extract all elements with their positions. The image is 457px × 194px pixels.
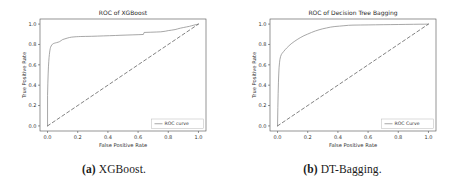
roc-chart-xgboost: ROC of XGBoost0.00.20.40.60.81.00.00.20.… <box>0 0 228 164</box>
y-tick-label: 0.8 <box>258 41 266 47</box>
y-tick-label: 0.0 <box>28 123 36 129</box>
y-tick-label: 0.6 <box>28 62 36 68</box>
x-tick-label: 0.0 <box>274 134 282 140</box>
x-tick-label: 0.2 <box>74 134 82 140</box>
roc-curve-line <box>278 24 429 126</box>
y-axis-label: True Positive Rate <box>21 52 27 99</box>
y-tick-label: 0.4 <box>258 82 266 88</box>
plot-area-dt-bagging: ROC of Decision Tree Bagging0.00.20.40.6… <box>228 0 457 164</box>
x-axis-label: False Positive Rate <box>329 142 377 148</box>
caption-text-a: XGBoost. <box>96 163 146 175</box>
caption-tag-b: (b) <box>303 163 317 175</box>
roc-chart-dt-bagging: ROC of Decision Tree Bagging0.00.20.40.6… <box>228 0 457 164</box>
x-tick-label: 1.0 <box>424 134 432 140</box>
plot-area-xgboost: ROC of XGBoost0.00.20.40.60.81.00.00.20.… <box>0 0 228 164</box>
x-tick-label: 0.2 <box>304 134 312 140</box>
x-tick-label: 0.6 <box>364 134 372 140</box>
x-tick-label: 0.4 <box>104 134 112 140</box>
roc-curve-line <box>48 24 199 126</box>
chart-title: ROC of XGBoost <box>99 9 148 16</box>
caption-text-b: DT-Bagging. <box>318 163 382 175</box>
x-tick-label: 0.0 <box>44 134 52 140</box>
x-tick-label: 0.8 <box>164 134 172 140</box>
subfigure-caption-a: (a) XGBoost. <box>0 163 228 175</box>
chance-diagonal-line <box>48 24 199 126</box>
subfigure-dt-bagging: ROC of Decision Tree Bagging0.00.20.40.6… <box>228 0 457 194</box>
y-tick-label: 0.0 <box>258 123 266 129</box>
y-axis-label: True Positive Rate <box>251 52 257 99</box>
chart-title: ROC of Decision Tree Bagging <box>308 9 397 17</box>
y-tick-label: 1.0 <box>28 21 36 27</box>
legend-label-roc-curve: ROC curve <box>165 121 190 126</box>
x-tick-label: 0.4 <box>334 134 342 140</box>
x-axis-label: False Positive Rate <box>99 142 147 148</box>
legend-label-roc-curve: ROC Curve <box>395 121 420 126</box>
x-tick-label: 0.6 <box>134 134 142 140</box>
caption-tag-a: (a) <box>82 163 96 175</box>
roc-figure: ROC of XGBoost0.00.20.40.60.81.00.00.20.… <box>0 0 457 194</box>
y-tick-label: 0.6 <box>258 62 266 68</box>
y-tick-label: 1.0 <box>258 21 266 27</box>
subfigure-caption-b: (b) DT-Bagging. <box>228 163 457 175</box>
x-tick-label: 0.8 <box>394 134 402 140</box>
y-tick-label: 0.2 <box>258 102 266 108</box>
subfigure-xgboost: ROC of XGBoost0.00.20.40.60.81.00.00.20.… <box>0 0 228 194</box>
chance-diagonal-line <box>278 24 429 126</box>
y-tick-label: 0.2 <box>28 102 36 108</box>
y-tick-label: 0.4 <box>28 82 36 88</box>
y-tick-label: 0.8 <box>28 41 36 47</box>
x-tick-label: 1.0 <box>194 134 202 140</box>
